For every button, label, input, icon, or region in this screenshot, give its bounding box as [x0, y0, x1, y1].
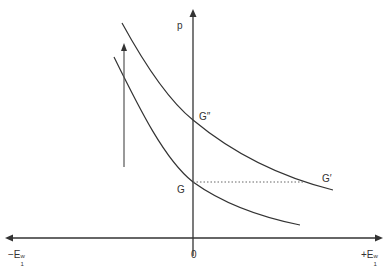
label-origin: 0: [191, 250, 197, 260]
label-left-axis: −Ew1: [8, 250, 26, 260]
label-g-double-prime: G″: [199, 112, 210, 122]
shift-arrowhead-icon: [121, 43, 127, 51]
left-axis-text: −E: [8, 249, 21, 260]
label-p: p: [177, 21, 183, 31]
label-g: G: [177, 185, 185, 195]
curve-g: [114, 57, 300, 225]
diagram-canvas: [0, 0, 387, 274]
left-axis-sub: 1: [21, 261, 24, 267]
right-axis-sub: 1: [374, 261, 377, 267]
left-axis-sup: w: [21, 253, 25, 259]
left-arrowhead-icon: [5, 235, 13, 242]
label-g-prime: G′: [322, 174, 332, 184]
label-right-axis: +Ew1: [361, 250, 379, 260]
up-arrowhead-icon: [190, 9, 197, 17]
right-axis-sup: w: [374, 253, 378, 259]
right-axis-text: +E: [361, 249, 374, 260]
right-arrowhead-icon: [375, 235, 383, 242]
curve-g-prime: [122, 23, 333, 190]
